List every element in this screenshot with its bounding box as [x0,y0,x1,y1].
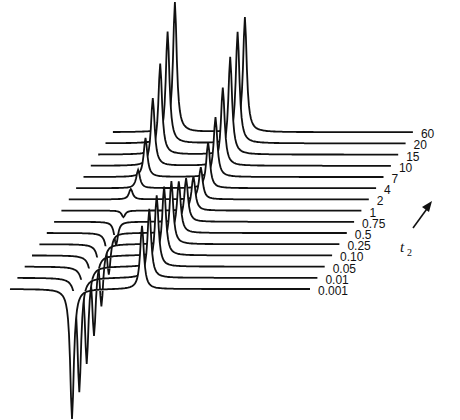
stacked-spectra-chart: 6020151074210.750.50.250.100.050.010.001… [0,0,460,420]
t2-axis-label: t [400,239,405,255]
t2-axis-subscript: 2 [407,247,412,258]
arrow-head-icon [422,201,432,212]
t2-axis-indicator: t 2 [0,0,460,420]
